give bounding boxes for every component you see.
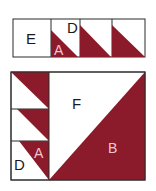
top-strip: E D A [13,19,145,58]
label-a-top: A [54,42,64,58]
label-f: F [72,95,81,112]
bottom-block: F B D A [11,72,145,180]
label-b: B [108,140,117,156]
label-e: E [26,30,36,47]
label-a-bottom: A [34,145,44,161]
label-d-bottom: D [14,156,25,173]
label-d-top: D [67,19,78,36]
quilt-block-diagram: E D A F B D A [0,0,156,191]
